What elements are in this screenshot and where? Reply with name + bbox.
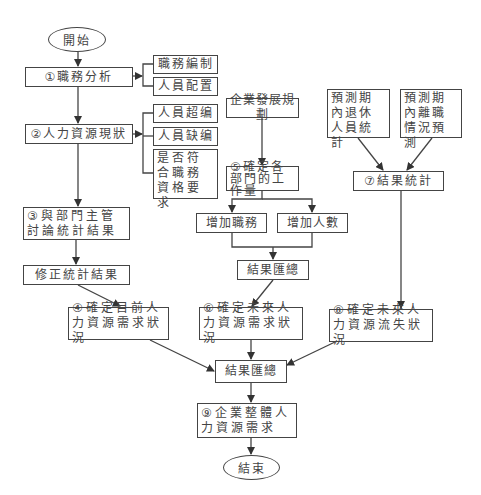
step1-job-analysis: ①職務分析 (25, 67, 133, 87)
step5-department-workload: ⑤確定各部門的工作量 (226, 166, 299, 191)
step7-result-statistics: ⑦結果統計 (353, 171, 444, 191)
overstaffed: 人員超编 (153, 104, 218, 123)
workload-summary: 結果匯總 (237, 260, 309, 280)
turnover-forecast: 預測期內離職情況預測 (400, 89, 462, 138)
staff-allocation: 人員配置 (153, 77, 218, 96)
qualification-check: 是否符合職務資格要求 (153, 149, 218, 199)
step6-future-hr-demand: ⑥確定未來人力資源需求狀況 (199, 307, 303, 340)
end-node: 結束 (223, 455, 280, 480)
retirement-forecast: 預測期內退休人員統計 (327, 89, 390, 138)
overall-summary: 結果匯總 (215, 360, 287, 383)
revise-statistics: 修正統計結果 (23, 265, 130, 285)
add-positions: 增加職務 (196, 213, 267, 233)
step8-future-hr-attrition: ⑧確定未來人力資源流失狀況 (329, 309, 433, 342)
understaffed: 人員缺编 (153, 127, 218, 146)
step4-current-hr-demand: ④確定目前人力資源需求狀況 (68, 307, 169, 340)
start-node: 開始 (48, 27, 106, 52)
add-headcount: 增加人數 (277, 213, 348, 233)
enterprise-development-plan: 企業發展規劃 (226, 98, 299, 118)
job-establishment: 職務編制 (153, 55, 218, 74)
step9-enterprise-hr-demand: ⑨企業整體人力資源需求 (197, 403, 297, 438)
step3-discuss-with-managers: ③與部門主管討論統計結果 (23, 207, 130, 240)
step2-hr-status: ②人力資源現狀 (25, 124, 133, 144)
